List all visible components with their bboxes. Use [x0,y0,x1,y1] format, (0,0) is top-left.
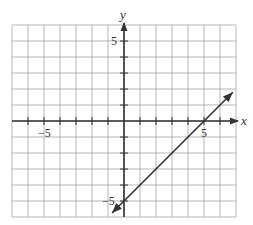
x-axis-label: x [240,113,247,128]
y-tick-label-pos5: 5 [111,34,117,48]
y-axis-arrow-icon [121,22,128,31]
x-tick-label-neg5: −5 [38,126,51,140]
coordinate-plane: x y −5 5 5 −5 [0,0,253,225]
y-axis-label: y [118,7,126,22]
y-tick-label-neg5: −5 [102,194,115,208]
x-tick-label-pos5: 5 [201,126,207,140]
x-axis-arrow-icon [230,118,239,125]
